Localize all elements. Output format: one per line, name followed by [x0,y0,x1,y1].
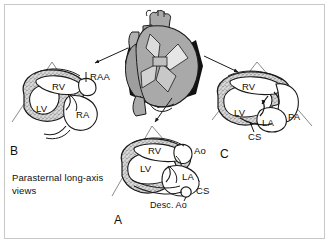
panel-a-label-cs: CS [196,186,209,197]
arrow-to-panel-c [204,56,238,72]
panel-c-label-pa: PA [288,112,300,123]
figure-caption: Parasternal long-axis views [12,172,132,198]
panel-b-ivc [44,126,66,135]
panel-a-coronary-sinus [181,187,191,197]
central-heart-illustration [125,10,203,116]
panel-b-artwork [12,62,97,139]
panel-a-label-rv: RV [148,146,161,157]
panel-a-label-desc-ao: Desc. Ao [150,200,187,210]
panel-c-label-la: LA [262,118,274,129]
panel-a-label-ao: Ao [194,146,206,157]
figure-parasternal-long-axis-views: RV LV RA RAA B RV LV LA Ao CS Desc. Ao A… [0,0,331,246]
panel-b-label-raa: RAA [90,72,110,83]
panel-c-label-cs: CS [248,132,261,143]
panel-b-label-ra: RA [76,110,89,121]
heart-plane-intersection [153,57,167,66]
panel-a-label-lv: LV [140,164,151,175]
panel-c-label-lv: LV [234,108,245,119]
panel-a-letter: A [114,214,122,227]
panel-c-label-rv: RV [242,82,255,93]
panel-b-label-rv: RV [52,82,65,93]
heart-inferior-vessel [133,96,146,116]
arrow-to-panel-b [95,48,128,63]
panel-b-letter: B [10,145,18,158]
panel-b-label-lv: LV [36,104,47,115]
figure-caption-line1: Parasternal long-axis [12,172,103,183]
panel-a-label-la: LA [182,172,194,183]
panel-a-aorta [174,144,192,163]
figure-caption-line2: views [12,185,36,196]
panel-c-letter: C [220,148,229,161]
